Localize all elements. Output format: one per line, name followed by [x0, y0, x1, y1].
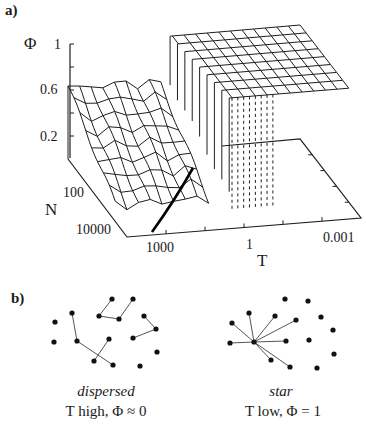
plateau-mesh-line [265, 28, 314, 91]
star-node [330, 327, 335, 332]
dispersed-edge [119, 299, 133, 319]
phi-tick-0: 1 [54, 37, 61, 53]
dispersed-node [130, 296, 135, 301]
dispersed-node [109, 296, 114, 301]
star-node [283, 338, 288, 343]
star-node [318, 314, 323, 319]
plateau-mesh-line [172, 36, 178, 44]
dispersed-node [69, 310, 74, 315]
plateau-mesh-line [230, 31, 278, 94]
star-node [306, 337, 311, 342]
dispersed-node [130, 335, 135, 340]
plateau-mesh-line [254, 29, 302, 92]
star-title: star [269, 383, 292, 400]
plateau-mesh-line [288, 26, 337, 89]
t-axis-title: T [257, 251, 267, 271]
n-axis-title: N [45, 200, 57, 220]
dispersed-node [116, 316, 121, 321]
star-node [246, 310, 251, 315]
dispersed-node [74, 338, 79, 343]
star-node [272, 313, 277, 318]
plateau-mesh-line [185, 41, 312, 52]
t-tick-1: 1 [246, 237, 253, 253]
dispersed-edge [99, 299, 112, 316]
surface-mesh-line [91, 87, 138, 203]
dispersed-subtitle: T high, Φ ≈ 0 [65, 403, 146, 420]
star-node [282, 296, 287, 301]
dispersed-node [137, 363, 142, 368]
dispersed-edge [99, 316, 119, 319]
plateau-mesh-line [229, 88, 349, 98]
star-subtitle: T low, Φ = 1 [245, 403, 321, 420]
star-node [268, 357, 273, 362]
n-tick-1: 10000 [76, 222, 111, 238]
star-node [293, 317, 298, 322]
dispersed-node [110, 362, 115, 367]
star-edge [232, 323, 254, 342]
star-edge [254, 341, 286, 342]
dispersed-node [106, 336, 111, 341]
plateau-mesh-line [196, 34, 244, 97]
star-edge [254, 316, 275, 342]
star-edge [249, 313, 254, 342]
dispersed-edge [144, 316, 156, 329]
star-node [305, 298, 310, 303]
star-node [251, 339, 256, 344]
dispersed-node [91, 358, 96, 363]
star-edge [230, 342, 254, 343]
star-node [227, 340, 232, 345]
dispersed-title: dispersed [77, 383, 135, 400]
star-edge [254, 342, 290, 367]
surface-mesh-line [149, 80, 197, 196]
t-tick-2: 0.001 [323, 230, 355, 246]
n-tick-0: 100 [63, 185, 84, 201]
star-node [314, 365, 319, 370]
dispersed-node [141, 313, 146, 318]
dispersed-edge [72, 313, 77, 341]
t-tick-0: 1000 [146, 240, 174, 256]
star-node [287, 364, 292, 369]
surface-mesh-line [68, 80, 161, 89]
dispersed-node [52, 319, 57, 324]
transition-curve [152, 168, 193, 232]
plateau-mesh-line [170, 25, 300, 36]
plateau-mesh-line [277, 27, 326, 90]
star-node [331, 351, 336, 356]
dispersed-node [153, 326, 158, 331]
dispersed-edge [133, 329, 156, 338]
star-edge [254, 320, 296, 342]
dispersed-node [51, 339, 56, 344]
surface-mesh-line [138, 89, 186, 199]
dispersed-node [154, 349, 159, 354]
plateau-mesh-line [184, 35, 232, 98]
panel-b-label: b) [11, 290, 24, 307]
plateau-mesh-line [177, 33, 306, 44]
star-node [229, 320, 234, 325]
phi-tick-2: 0.2 [40, 129, 58, 145]
plateau-mesh-line [200, 57, 325, 68]
plateau-mesh-line [300, 25, 349, 88]
plateau-mesh-line [219, 32, 267, 95]
phi-axis-title: Φ [24, 34, 36, 54]
plateau-mesh-line [242, 30, 290, 93]
star-edge [254, 342, 271, 360]
panel-a-label: a) [5, 2, 18, 19]
dispersed-node [96, 313, 101, 318]
phi-tick-1: 0.6 [40, 82, 58, 98]
